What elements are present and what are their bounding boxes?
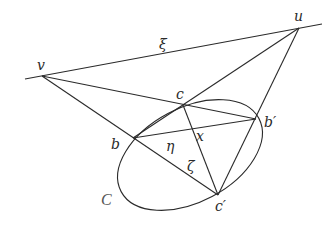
line-xi bbox=[25, 24, 322, 79]
line-u-b-prime-c-prime bbox=[218, 28, 299, 195]
projective-geometry-diagram: v u c b′ b c′ x ξ η ζ C bbox=[0, 0, 336, 239]
label-x: x bbox=[196, 128, 204, 144]
label-zeta: ζ bbox=[187, 158, 196, 174]
label-u: u bbox=[294, 8, 303, 24]
label-c: c bbox=[176, 86, 184, 102]
label-c-prime: c′ bbox=[215, 198, 227, 214]
label-xi: ξ bbox=[159, 36, 168, 52]
label-conic-c: C bbox=[101, 191, 112, 208]
label-b: b bbox=[111, 136, 120, 152]
label-v: v bbox=[37, 57, 45, 73]
label-eta: η bbox=[166, 138, 175, 154]
label-b-prime: b′ bbox=[264, 114, 277, 130]
line-c-c-prime bbox=[183, 105, 218, 195]
